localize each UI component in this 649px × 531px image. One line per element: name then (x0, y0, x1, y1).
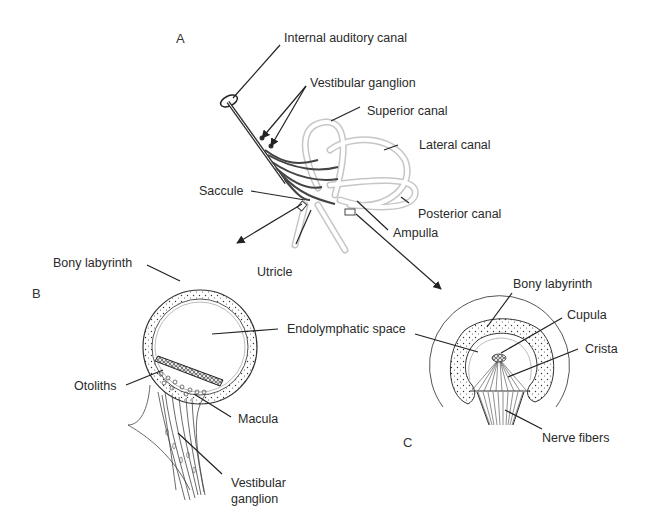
label-endolymphatic-space: Endolymphatic space (287, 322, 406, 336)
label-vestibular-ganglion-b-line2: ganglion (231, 492, 278, 506)
label-utricle: Utricle (257, 265, 292, 279)
label-ampulla: Ampulla (393, 226, 438, 240)
label-internal-auditory-canal: Internal auditory canal (284, 31, 407, 45)
label-bony-labyrinth-c: Bony labyrinth (513, 277, 592, 291)
label-vestibular-ganglion-a: Vestibular ganglion (310, 76, 416, 90)
label-saccule: Saccule (199, 184, 243, 198)
label-crista: Crista (585, 342, 618, 356)
label-posterior-canal: Posterior canal (418, 207, 501, 221)
panel-label-b: B (32, 286, 41, 301)
label-superior-canal: Superior canal (367, 104, 448, 118)
label-macula: Macula (238, 412, 278, 426)
panel-label-a: A (176, 31, 185, 46)
label-otoliths: Otoliths (74, 379, 116, 393)
label-lateral-canal: Lateral canal (419, 138, 491, 152)
panel-b-illustration (128, 290, 257, 500)
label-cupula: Cupula (567, 308, 607, 322)
label-vestibular-ganglion-b-line1: Vestibular (231, 476, 286, 490)
label-bony-labyrinth-b: Bony labyrinth (53, 256, 132, 270)
label-nerve-fibers: Nerve fibers (542, 431, 609, 445)
panel-label-c: C (403, 435, 412, 450)
